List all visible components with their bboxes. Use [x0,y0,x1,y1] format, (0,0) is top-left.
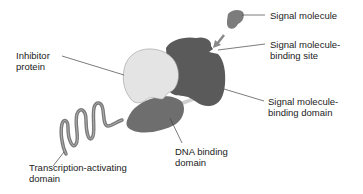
label-inhibitor-protein: Inhibitorprotein [16,50,50,72]
label-text: Signal molecule- [270,39,340,50]
inhibitor-protein-shape [123,49,178,103]
label-text: binding domain [268,107,338,118]
signal-molecule-shape [227,10,244,29]
label-text: domain [29,173,127,184]
label-dna-binding-domain: DNA bindingdomain [175,146,228,168]
label-text: Inhibitor [16,50,50,61]
label-binding-site: Signal molecule-binding site [270,39,340,61]
label-binding-domain: Signal molecule-binding domain [268,96,338,118]
label-text: Transcription-activating [29,162,127,173]
transcription-coil-shape [61,103,122,154]
protein-domain-diagram: Signal molecule Signal molecule-binding … [0,0,363,194]
label-text: domain [175,157,228,168]
label-signal-molecule: Signal molecule [270,10,337,21]
label-text: protein [16,61,50,72]
label-text: Signal molecule [270,10,337,21]
label-transcription-domain: Transcription-activatingdomain [29,162,127,184]
label-text: DNA binding [175,146,228,157]
label-text: Signal molecule- [268,96,338,107]
label-text: binding site [270,50,340,61]
